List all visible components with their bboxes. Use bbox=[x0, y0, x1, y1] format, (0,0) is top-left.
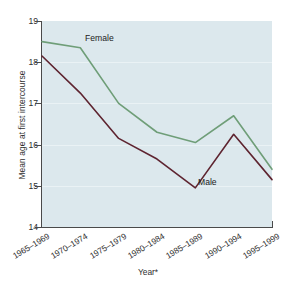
series-label-male: Male bbox=[198, 177, 217, 187]
y-tick-mark-16 bbox=[35, 145, 41, 146]
plot-area bbox=[42, 21, 272, 227]
x-tick-label-4: 1985–1989 bbox=[164, 231, 204, 261]
series-label-female: Female bbox=[85, 33, 114, 43]
x-tick-mark-6 bbox=[272, 221, 273, 227]
x-tick-label-2: 1975–1979 bbox=[87, 231, 127, 261]
x-tick-label-3: 1980–1984 bbox=[126, 231, 166, 261]
y-tick-mark-17 bbox=[35, 103, 41, 104]
y-tick-mark-15 bbox=[35, 186, 41, 187]
y-tick-mark-14 bbox=[35, 227, 41, 228]
x-tick-label-1: 1970–1974 bbox=[49, 231, 89, 261]
series-layer bbox=[42, 21, 272, 227]
x-axis-line bbox=[41, 227, 273, 228]
line-chart: Mean age at first intercourse 1415161718… bbox=[0, 0, 296, 291]
y-tick-mark-19 bbox=[35, 21, 41, 22]
series-line-female bbox=[42, 42, 272, 170]
caption-sliver bbox=[18, 286, 278, 291]
y-tick-mark-18 bbox=[35, 62, 41, 63]
x-tick-label-5: 1990–1994 bbox=[202, 231, 242, 261]
x-tick-label-6: 1995–1999 bbox=[241, 231, 281, 261]
x-axis-title: Year* bbox=[0, 267, 296, 277]
